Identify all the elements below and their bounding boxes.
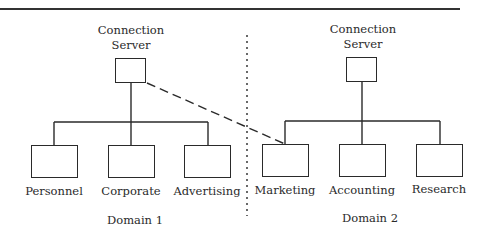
connector-lines bbox=[0, 0, 485, 247]
d1-server-label-line1: Connection bbox=[98, 23, 164, 38]
d1-server-label: Connection Server bbox=[98, 23, 164, 53]
cross-domain-dashed-link bbox=[147, 83, 285, 144]
node-personnel-label: Personnel bbox=[25, 184, 83, 198]
node-accounting-box bbox=[339, 144, 386, 177]
node-marketing-box bbox=[262, 144, 309, 177]
node-advertising-box bbox=[184, 145, 231, 178]
domain-1-label: Domain 1 bbox=[107, 213, 163, 227]
d2-server-label-line2: Server bbox=[330, 37, 396, 52]
domain-2-label: Domain 2 bbox=[342, 211, 398, 225]
node-advertising-label: Advertising bbox=[173, 184, 240, 198]
d2-server-label-line1: Connection bbox=[330, 22, 396, 37]
node-personnel-box bbox=[31, 145, 78, 178]
node-corporate-box bbox=[108, 145, 155, 178]
d2-connection-server-box bbox=[346, 57, 377, 82]
node-research-box bbox=[416, 144, 463, 177]
d2-server-label: Connection Server bbox=[330, 22, 396, 52]
d1-connection-server-box bbox=[115, 58, 146, 83]
node-corporate-label: Corporate bbox=[101, 184, 160, 198]
node-marketing-label: Marketing bbox=[255, 183, 316, 197]
node-research-label: Research bbox=[412, 182, 466, 196]
d1-server-label-line2: Server bbox=[98, 38, 164, 53]
node-accounting-label: Accounting bbox=[329, 183, 395, 197]
